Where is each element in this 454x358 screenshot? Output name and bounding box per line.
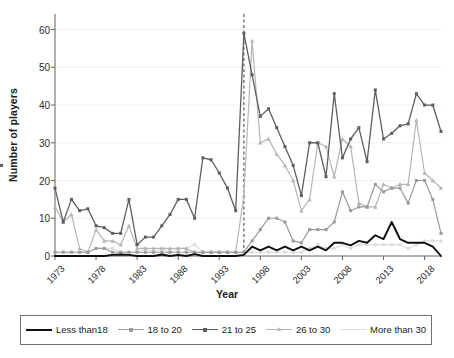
legend-swatch-icon (26, 325, 52, 335)
legend-item[interactable]: 18 to 20 (118, 325, 182, 335)
legend-swatch-icon (192, 325, 218, 335)
chart-legend: Less than1818 to 2021 to 2526 to 30More … (20, 315, 432, 345)
legend-label: 18 to 20 (148, 325, 182, 335)
legend-swatch-icon (340, 325, 366, 335)
legend-label: Less than18 (56, 325, 108, 335)
chart-figure: Number of players 0102030405060 19731978… (0, 0, 454, 358)
legend-label: 26 to 30 (296, 325, 330, 335)
series-26-to-30 (53, 39, 443, 254)
legend-item[interactable]: 21 to 25 (192, 325, 256, 335)
legend-swatch-icon (118, 325, 144, 335)
x-axis-title: Year (0, 288, 454, 300)
legend-item[interactable]: Less than18 (26, 325, 108, 335)
legend-label: 21 to 25 (222, 325, 256, 335)
legend-item[interactable]: 26 to 30 (266, 325, 330, 335)
series-21-to-25 (0, 32, 443, 246)
legend-swatch-icon (266, 325, 292, 335)
x-axis-tick-labels: 1973197819831988199319982003200820132018 (0, 0, 454, 60)
legend-label: More than 30 (370, 325, 426, 335)
legend-item[interactable]: More than 30 (340, 325, 426, 335)
